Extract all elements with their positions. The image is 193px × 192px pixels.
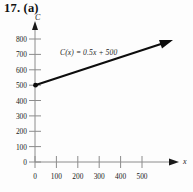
y-tick-label: 100 (16, 142, 27, 151)
y-axis-arrowhead (32, 21, 38, 30)
x-tick-label: 400 (115, 172, 126, 181)
x-axis-arrowhead (169, 159, 179, 166)
x-tick-label: 200 (72, 172, 83, 181)
y-tick-label: 600 (16, 65, 27, 74)
x-axis-label: x (183, 157, 187, 166)
x-tick-label: 500 (136, 172, 147, 181)
x-tick-label: 0 (33, 172, 37, 181)
y-tick-label: 0 (23, 158, 27, 167)
y-tick-label: 400 (16, 96, 27, 105)
y-intercept-point (33, 83, 38, 88)
y-tick-label: 300 (16, 111, 27, 120)
figure-container: 17. (a) (0, 0, 193, 192)
x-tick-label: 100 (51, 172, 62, 181)
equation-annotation: C(x) = 0.5x + 500 (60, 48, 117, 57)
y-tick-label: 800 (16, 35, 27, 44)
y-axis-label: C (35, 13, 40, 22)
x-tick-label: 300 (94, 172, 105, 181)
y-tick-label: 200 (16, 127, 27, 136)
y-tick-label: 700 (16, 50, 27, 59)
coordinate-plot (0, 0, 193, 192)
cost-function-arrowhead (159, 40, 173, 49)
y-tick-label: 500 (16, 81, 27, 90)
